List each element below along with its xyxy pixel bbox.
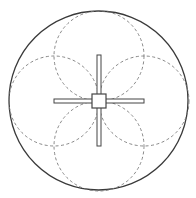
center-square — [92, 94, 106, 108]
diagram-canvas — [0, 0, 196, 198]
